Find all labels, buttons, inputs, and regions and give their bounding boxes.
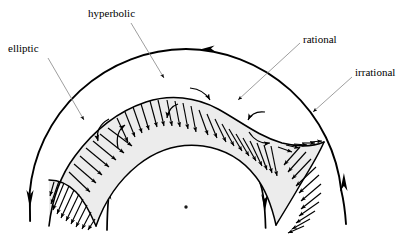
resonance-ribbon-group bbox=[49, 98, 324, 233]
outer-arc-right-arrow-icon bbox=[340, 173, 347, 191]
outer-arc-right-terminal bbox=[341, 190, 346, 224]
leader-line-irrational bbox=[313, 77, 352, 112]
label-rational: rational bbox=[303, 34, 337, 45]
rotation-arrow-icon-5 bbox=[248, 112, 265, 120]
label-elliptic: elliptic bbox=[8, 43, 39, 54]
label-hyperbolic: hyperbolic bbox=[88, 8, 135, 19]
label-irrational: irrational bbox=[355, 67, 395, 78]
phase-portrait-svg bbox=[0, 0, 413, 237]
leader-line-hyperbolic bbox=[131, 23, 164, 78]
rotation-arrow-icon-4 bbox=[190, 88, 210, 100]
leader-line-elliptic bbox=[48, 58, 84, 120]
center-point bbox=[184, 205, 187, 208]
diagram-canvas: elliptic hyperbolic rational irrational bbox=[0, 0, 413, 237]
inner-arc-left-terminal bbox=[107, 198, 109, 230]
